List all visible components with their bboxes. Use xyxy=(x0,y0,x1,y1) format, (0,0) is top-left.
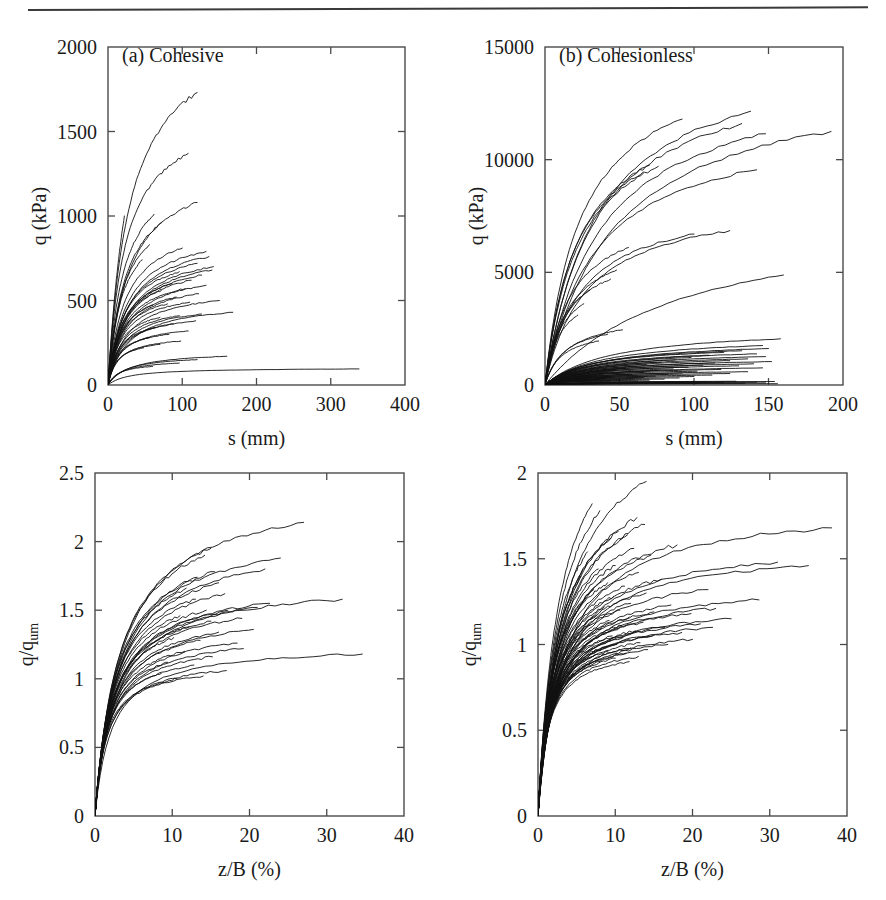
x-tick-label: 20 xyxy=(240,824,260,846)
page-divider-rule xyxy=(28,6,868,11)
x-tick-label: 0 xyxy=(533,824,543,846)
y-tick-label: 1.5 xyxy=(502,548,527,570)
x-tick-label: 100 xyxy=(167,393,197,415)
y-tick-label: 0.5 xyxy=(59,736,84,758)
x-axis-label: z/B (%) xyxy=(218,858,281,881)
svg-text:q (kPa): q (kPa) xyxy=(28,187,51,245)
svg-text:q/qum: q/qum xyxy=(15,623,41,667)
y-tick-label: 1500 xyxy=(57,121,97,143)
x-axis-label: s (mm) xyxy=(228,427,285,450)
svg-text:q/qum: q/qum xyxy=(458,623,484,667)
y-tick-label: 1 xyxy=(517,634,527,656)
y-tick-label: 2000 xyxy=(57,36,97,58)
y-tick-label: 1 xyxy=(74,668,84,690)
x-tick-label: 10 xyxy=(605,824,625,846)
x-tick-label: 0 xyxy=(103,393,113,415)
y-axis-label: q (kPa) xyxy=(28,187,51,245)
x-axis-label: s (mm) xyxy=(665,427,722,450)
x-tick-label: 20 xyxy=(683,824,703,846)
panel-a: 01002003004000500100015002000(a) Cohesiv… xyxy=(0,20,443,450)
x-tick-label: 200 xyxy=(242,393,272,415)
y-axis-label: q/qum xyxy=(458,623,484,667)
x-tick-label: 10 xyxy=(162,824,182,846)
x-tick-label: 30 xyxy=(317,824,337,846)
x-tick-label: 400 xyxy=(390,393,420,415)
y-tick-label: 2 xyxy=(74,531,84,553)
y-tick-label: 1000 xyxy=(57,205,97,227)
x-tick-label: 200 xyxy=(828,393,858,415)
y-tick-label: 1.5 xyxy=(59,599,84,621)
y-tick-label: 0 xyxy=(517,805,527,827)
y-tick-label: 15000 xyxy=(484,36,534,58)
y-tick-label: 0 xyxy=(524,374,534,396)
plot-frame xyxy=(538,473,847,816)
x-tick-label: 50 xyxy=(610,393,630,415)
x-tick-label: 0 xyxy=(540,393,550,415)
y-tick-label: 0 xyxy=(74,805,84,827)
y-tick-label: 500 xyxy=(67,290,97,312)
x-axis-label: z/B (%) xyxy=(661,858,724,881)
x-tick-label: 0 xyxy=(90,824,100,846)
y-axis-label: q/qum xyxy=(15,623,41,667)
figure-page: 01002003004000500100015002000(a) Cohesiv… xyxy=(0,0,886,900)
panel-b: 050100150200050001000015000(b) Cohesionl… xyxy=(443,20,886,450)
x-tick-label: 30 xyxy=(760,824,780,846)
y-axis-label: q (kPa) xyxy=(465,187,488,245)
x-tick-label: 40 xyxy=(394,824,414,846)
panel-title: (a) Cohesive xyxy=(122,44,224,67)
x-tick-label: 100 xyxy=(679,393,709,415)
y-tick-label: 0.5 xyxy=(502,719,527,741)
panel-title: (b) Cohesionless xyxy=(559,44,693,67)
y-tick-label: 2.5 xyxy=(59,462,84,484)
y-tick-label: 2 xyxy=(517,462,527,484)
svg-text:q (kPa): q (kPa) xyxy=(465,187,488,245)
y-tick-label: 0 xyxy=(87,374,97,396)
panel-d: 01020304000.511.52z/B (%)q/qum xyxy=(443,450,886,890)
y-tick-label: 5000 xyxy=(494,261,534,283)
x-tick-label: 40 xyxy=(837,824,857,846)
panel-c: 01020304000.511.522.5z/B (%)q/qum xyxy=(0,450,443,890)
x-tick-label: 150 xyxy=(754,393,784,415)
x-tick-label: 300 xyxy=(316,393,346,415)
plot-frame xyxy=(545,47,843,385)
y-tick-label: 10000 xyxy=(484,149,534,171)
